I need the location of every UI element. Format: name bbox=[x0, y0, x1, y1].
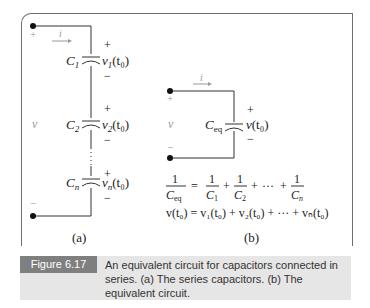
svg-text:···: ··· bbox=[262, 179, 274, 193]
svg-text:C2: C2 bbox=[234, 188, 246, 203]
svg-text:+: + bbox=[104, 38, 111, 52]
svg-text:vn(t₀): vn(t₀) bbox=[102, 175, 129, 192]
svg-text:C1: C1 bbox=[206, 188, 218, 203]
svg-text:+: + bbox=[167, 92, 173, 104]
svg-text:v(t₀): v(t₀) bbox=[246, 117, 269, 132]
svg-text:Ceq: Ceq bbox=[205, 117, 223, 134]
svg-text:i: i bbox=[200, 72, 203, 83]
svg-text:C1: C1 bbox=[66, 53, 79, 70]
sublabel-a: (a) bbox=[72, 230, 86, 245]
svg-text:v: v bbox=[168, 117, 174, 131]
svg-text:−: − bbox=[104, 69, 111, 83]
svg-text:+: + bbox=[251, 179, 258, 193]
svg-text:1: 1 bbox=[209, 172, 215, 186]
figure-caption: Figure 6.17 An equivalent circuit for ca… bbox=[20, 256, 351, 300]
svg-text:v2(t₀): v2(t₀) bbox=[102, 117, 129, 134]
terminal-voltage: v bbox=[32, 117, 38, 131]
svg-text:+: + bbox=[223, 179, 230, 193]
svg-text:1: 1 bbox=[172, 172, 178, 186]
svg-text:−: − bbox=[167, 141, 173, 153]
svg-text:−: − bbox=[247, 132, 254, 146]
svg-text:1: 1 bbox=[237, 172, 243, 186]
terminal-node bbox=[30, 213, 36, 219]
svg-text:v1(t₀): v1(t₀) bbox=[102, 53, 129, 70]
svg-text:Cn: Cn bbox=[66, 175, 80, 192]
svg-text:−: − bbox=[104, 191, 111, 205]
figure-label: Figure 6.17 bbox=[20, 256, 97, 273]
svg-text:Ceq: Ceq bbox=[166, 188, 182, 203]
svg-text:Cn: Cn bbox=[291, 188, 303, 203]
equation-ceq: 1 Ceq = 1 C1 + 1 C2 + ··· + 1 Cn bbox=[166, 172, 304, 203]
svg-text:+: + bbox=[247, 103, 254, 117]
svg-text:−: − bbox=[104, 133, 111, 147]
svg-text:+: + bbox=[104, 102, 111, 116]
svg-text:C2: C2 bbox=[66, 117, 80, 134]
current-label: i bbox=[59, 28, 62, 39]
equation-voltage: v(t₀) = v₁(t₀) + v₂(t₀) + ··· + vₙ(t₀) bbox=[166, 206, 328, 220]
svg-text:1: 1 bbox=[294, 172, 300, 186]
terminal-plus: + bbox=[30, 28, 36, 40]
svg-text:=: = bbox=[191, 179, 198, 193]
terminal-minus: − bbox=[30, 197, 36, 209]
svg-text:+: + bbox=[280, 179, 287, 193]
caption-text: An equivalent circuit for capacitors con… bbox=[105, 258, 349, 300]
sublabel-b: (b) bbox=[244, 230, 259, 245]
